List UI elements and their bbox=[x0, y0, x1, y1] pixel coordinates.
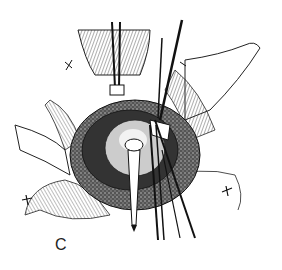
panel-label: C bbox=[55, 236, 67, 254]
illustration-drawing bbox=[0, 0, 282, 270]
surgical-illustration bbox=[0, 0, 282, 270]
